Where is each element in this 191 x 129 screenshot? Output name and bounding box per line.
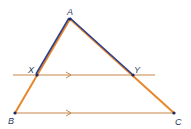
point-x	[35, 73, 38, 76]
segment-ay-highlight	[70, 18, 132, 74]
label-c: C	[175, 117, 182, 127]
label-x: X	[27, 65, 35, 75]
label-a: A	[66, 7, 73, 17]
segment-ab	[15, 19, 70, 113]
point-a	[68, 17, 71, 20]
label-b: B	[8, 116, 14, 126]
segment-ax-highlight	[36, 18, 69, 74]
label-y: Y	[134, 65, 141, 75]
point-b	[13, 111, 16, 114]
point-c	[172, 111, 175, 114]
triangle-diagram: A X Y B C	[0, 0, 191, 129]
